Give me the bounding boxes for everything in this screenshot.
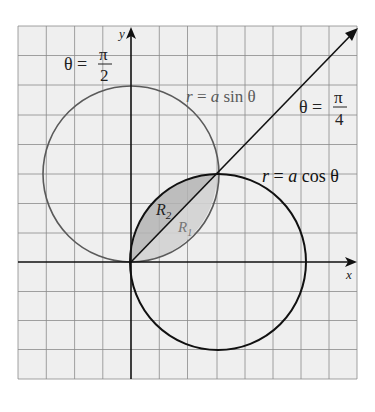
- svg-text:θ =: θ =: [299, 97, 322, 117]
- svg-text:π: π: [334, 88, 343, 107]
- svg-text:4: 4: [335, 110, 344, 129]
- svg-text:2: 2: [100, 66, 109, 85]
- y-axis-label: y: [117, 26, 125, 41]
- svg-text:θ =: θ =: [64, 54, 87, 74]
- x-axis-label: x: [345, 267, 352, 282]
- polar-diagram: y x θ = π 2 θ = π 4 r = a sin θ r = a co…: [0, 0, 375, 412]
- label-cos-curve: r = a cos θ: [262, 166, 339, 186]
- svg-text:π: π: [99, 45, 108, 64]
- label-sin-curve: r = a sin θ: [186, 87, 256, 106]
